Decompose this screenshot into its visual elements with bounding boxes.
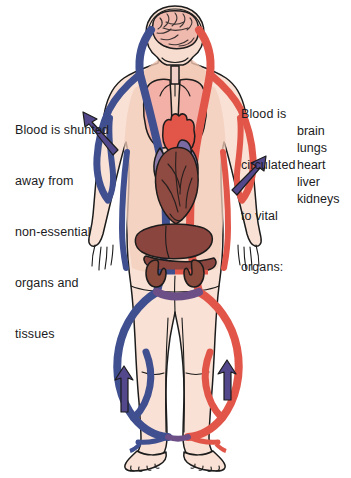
ankle-crosslink — [168, 437, 188, 439]
circulation-diagram: .ol{stroke:#1c1c1c;stroke-width:1.5;stro… — [0, 0, 351, 478]
shunting-caption-line-4: organs and — [15, 275, 109, 292]
liver — [135, 224, 212, 259]
trachea — [171, 66, 179, 84]
circulation-caption-line-4: organs: — [241, 259, 296, 276]
circulation-caption-line-3: to vital — [241, 208, 296, 225]
shunting-caption: Blood is shunted away from non-essential… — [15, 88, 109, 377]
shunting-caption-line-3: non-essential — [15, 224, 109, 241]
pelvic-crosslink — [157, 292, 199, 297]
right-ankle-vessel — [216, 444, 226, 451]
circulation-caption-line-2: circulated — [241, 157, 296, 174]
organ-item-brain: brain — [297, 123, 339, 140]
shunting-caption-line-1: Blood is shunted — [15, 122, 109, 139]
organ-item-lungs: lungs — [297, 140, 339, 157]
organ-item-kidneys: kidneys — [297, 191, 339, 208]
organ-item-liver: liver — [297, 174, 339, 191]
brain — [153, 11, 199, 49]
shunting-caption-line-5: tissues — [15, 326, 109, 343]
circulation-caption-line-1: Blood is — [241, 106, 296, 123]
organ-item-heart: heart — [297, 157, 339, 174]
shunting-caption-line-2: away from — [15, 173, 109, 190]
vital-organ-list: brain lungs heart liver kidneys — [297, 123, 339, 208]
head-group — [146, 6, 204, 65]
circulation-caption: Blood is circulated to vital organs: — [241, 72, 296, 310]
